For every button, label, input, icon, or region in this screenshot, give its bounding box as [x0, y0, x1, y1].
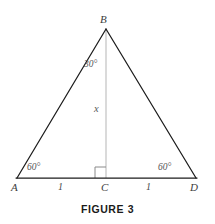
vertex-label-c: C [101, 182, 108, 193]
triangle-side-bd [106, 29, 196, 178]
vertex-label-a: A [11, 182, 18, 193]
altitude-variable-label: x [94, 104, 99, 115]
angle-label-base-right-60: 60° [158, 163, 171, 173]
figure-container: B A C D 30° 60° 60° x 1 1 FIGURE 3 [0, 0, 215, 224]
figure-caption: FIGURE 3 [0, 203, 215, 215]
vertex-label-b: B [100, 14, 107, 25]
vertex-label-d: D [190, 182, 198, 193]
triangle-side-ab [17, 29, 106, 178]
right-angle-marker [95, 167, 106, 178]
angle-label-apex-30: 30° [84, 60, 97, 70]
angle-label-base-left-60: 60° [27, 163, 40, 173]
segment-length-label-cd: 1 [146, 182, 151, 192]
segment-length-label-ac: 1 [58, 182, 63, 192]
